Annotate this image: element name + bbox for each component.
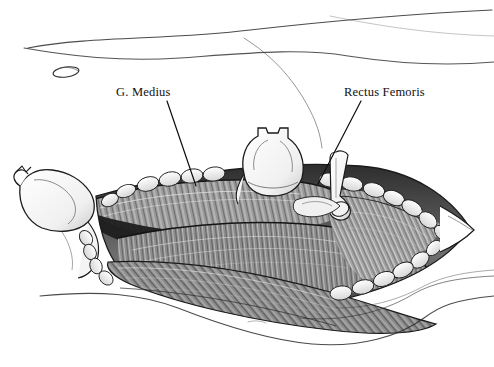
asis-landmark-oval [52,65,79,79]
surgical-illustration-figure: G. Medius Rectus Femoris [0,0,494,367]
upper-skin-contour-2 [24,48,494,64]
label-rectus-femoris: Rectus Femoris [344,86,425,99]
lower-skin-mark [248,321,266,323]
upper-skin-contour-1 [28,10,492,48]
skin-surface-contours [24,10,494,148]
illustration-canvas [0,0,494,367]
left-retractor-blade [14,166,99,278]
label-g-medius: G. Medius [116,86,171,99]
